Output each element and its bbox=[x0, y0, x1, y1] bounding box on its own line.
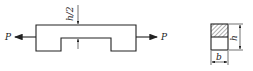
cross-section-hatched bbox=[211, 24, 228, 37]
b-label: b bbox=[216, 52, 222, 62]
diagram-canvas: h/2 P P h b bbox=[0, 0, 253, 71]
load-label-right: P bbox=[160, 32, 168, 42]
h2-label: h/2 bbox=[65, 6, 75, 21]
notched-bar bbox=[36, 25, 136, 51]
h-label: h bbox=[229, 35, 239, 41]
load-label-left: P bbox=[4, 32, 12, 42]
